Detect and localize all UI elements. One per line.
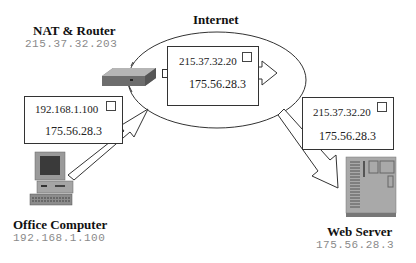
packet-destination: 175.56.28.3 bbox=[189, 77, 246, 92]
packet-delivered: 215.37.32.20 175.56.28.3 bbox=[302, 97, 394, 150]
packet-source: 192.168.1.100 bbox=[35, 103, 98, 115]
server-title: Web Server bbox=[327, 224, 392, 240]
office-title: Office Computer bbox=[13, 217, 107, 233]
server-icon bbox=[346, 157, 396, 217]
router-title: NAT & Router bbox=[33, 23, 116, 39]
arrow-internet-forward bbox=[258, 61, 277, 85]
packet-destination: 175.56.28.3 bbox=[45, 124, 102, 139]
packet-flag-icon bbox=[377, 102, 387, 112]
router-ip: 215.37.32.203 bbox=[25, 38, 117, 50]
internet-label: Internet bbox=[193, 12, 239, 28]
packet-outgoing: 192.168.1.100 175.56.28.3 bbox=[24, 96, 123, 144]
desktop-computer-icon bbox=[30, 152, 73, 205]
office-ip: 192.168.1.100 bbox=[13, 232, 105, 244]
packet-translated: 215.37.32.20 175.56.28.3 bbox=[167, 46, 259, 106]
server-ip: 175.56.28.3 bbox=[316, 239, 394, 251]
packet-flag-icon bbox=[106, 101, 116, 111]
packet-source: 215.37.32.20 bbox=[313, 106, 371, 118]
packet-source: 215.37.32.20 bbox=[179, 55, 237, 67]
packet-flag-icon bbox=[242, 52, 252, 62]
packet-destination: 175.56.28.3 bbox=[319, 129, 376, 144]
